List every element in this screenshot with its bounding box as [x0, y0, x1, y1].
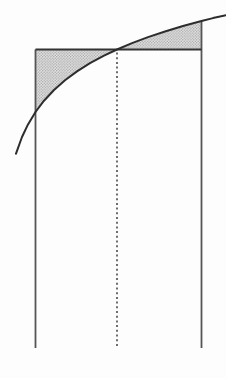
- figure-canvas: [0, 0, 226, 378]
- function-graph: [0, 0, 226, 378]
- figure-background: [0, 0, 226, 378]
